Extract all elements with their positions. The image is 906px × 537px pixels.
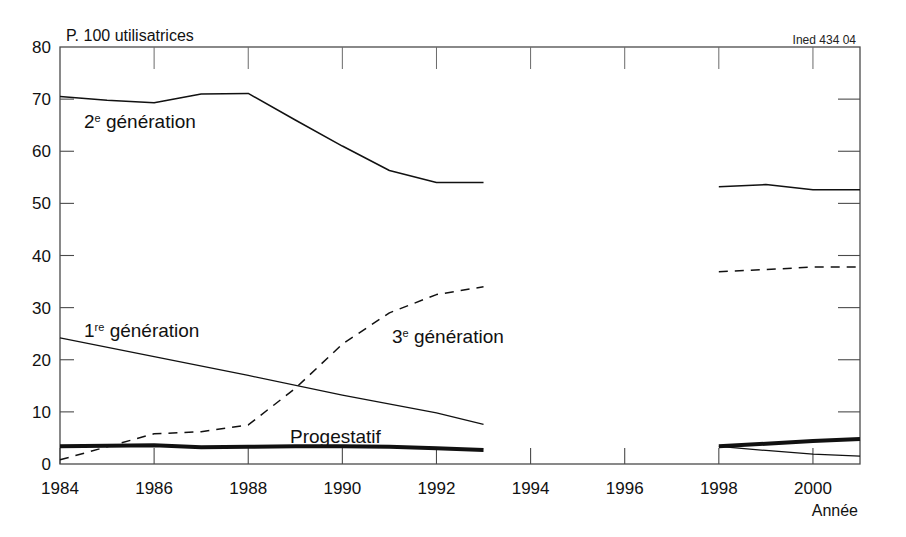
x-tick-label: 1996 xyxy=(606,479,644,498)
x-tick-label: 1992 xyxy=(418,479,456,498)
x-tick-label: 1998 xyxy=(700,479,738,498)
y-tick-label: 80 xyxy=(32,38,51,57)
chart-svg: 01020304050607080 1984198619881990199219… xyxy=(0,0,906,537)
y-tick-label: 60 xyxy=(32,142,51,161)
x-tick-label: 1990 xyxy=(323,479,361,498)
y-axis-unit-label: P. 100 utilisatrices xyxy=(66,27,194,44)
y-tick-label: 30 xyxy=(32,299,51,318)
label-progestatif: Progestatif xyxy=(290,426,382,447)
x-tick-label: 1986 xyxy=(135,479,173,498)
y-tick-label: 50 xyxy=(32,194,51,213)
y-tick-label: 0 xyxy=(42,455,51,474)
y-tick-label: 20 xyxy=(32,351,51,370)
y-axis-tick-labels: 01020304050607080 xyxy=(32,38,51,474)
label-gen2: 2e génération xyxy=(84,111,196,132)
x-tick-label: 1994 xyxy=(512,479,550,498)
x-axis-label: Année xyxy=(812,502,858,519)
y-tick-label: 70 xyxy=(32,90,51,109)
y-tick-label: 10 xyxy=(32,403,51,422)
source-label: Ined 434 04 xyxy=(793,33,857,47)
y-tick-label: 40 xyxy=(32,247,51,266)
chart-figure: 01020304050607080 1984198619881990199219… xyxy=(0,0,906,537)
x-tick-label: 1984 xyxy=(41,479,79,498)
x-axis-tick-labels: 198419861988199019921994199619982000 xyxy=(41,479,832,498)
label-gen3: 3e génération xyxy=(392,326,504,347)
x-tick-label: 2000 xyxy=(794,479,832,498)
x-tick-label: 1988 xyxy=(229,479,267,498)
chart-background xyxy=(0,0,906,537)
